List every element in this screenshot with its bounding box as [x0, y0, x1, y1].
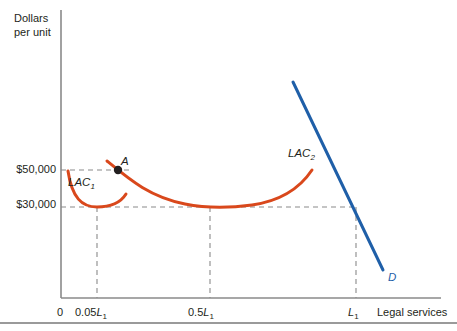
- curve-lac2: [107, 161, 312, 207]
- chart-figure: Dollarsper unit $50,000 $30,000 0 0.05L1…: [0, 0, 457, 331]
- curve-label-lac1: LAC1: [68, 176, 95, 190]
- y-axis-title: Dollarsper unit: [14, 11, 51, 39]
- curve-label-demand: D: [388, 271, 396, 284]
- y-axis-title-line1: Dollars: [14, 12, 48, 24]
- x-tick-label-005L1: 0.05L1: [75, 306, 107, 320]
- curve-label-lac2-base: LAC: [288, 147, 310, 159]
- point-a-label: A: [121, 155, 129, 168]
- x-tick-label-origin: 0: [52, 306, 68, 319]
- y-axis-title-line2: per unit: [14, 26, 51, 38]
- x-tick-005-value: 0.05: [75, 306, 96, 318]
- curve-label-lac2-sub: 2: [310, 153, 314, 162]
- x-tick-005-symbol: L: [96, 306, 102, 318]
- x-tick-05-value: 0.5: [188, 306, 203, 318]
- x-axis-title: Legal services: [377, 306, 447, 319]
- curve-label-lac2: LAC2: [288, 147, 315, 161]
- x-tick-label-L1: L1: [348, 306, 359, 320]
- x-tick-L1-sub: 1: [354, 312, 358, 321]
- curve-label-lac1-sub: 1: [90, 182, 94, 191]
- x-tick-05-sub: 1: [209, 312, 213, 321]
- x-tick-005-sub: 1: [103, 312, 107, 321]
- curve-label-lac1-base: LAC: [68, 176, 90, 188]
- y-tick-label-50000: $50,000: [2, 163, 56, 176]
- y-tick-label-30000: $30,000: [2, 198, 56, 211]
- x-tick-label-05L1: 0.5L1: [188, 306, 214, 320]
